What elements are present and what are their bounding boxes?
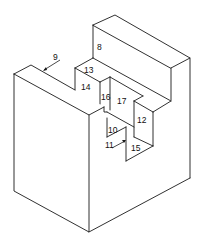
label-face-10: 10 <box>108 125 118 135</box>
label-face-13: 13 <box>84 65 94 75</box>
label-face-15: 15 <box>131 143 141 153</box>
label-face-8: 8 <box>97 42 102 52</box>
label-face-11: 11 <box>105 140 114 150</box>
leader-11 <box>112 140 126 148</box>
label-face-14: 14 <box>81 82 91 92</box>
isometric-block-diagram: 8 9 10 11 12 13 14 15 16 17 <box>0 0 204 241</box>
label-face-16: 16 <box>101 92 111 102</box>
label-face-12: 12 <box>137 115 147 125</box>
label-face-9: 9 <box>53 52 58 62</box>
label-face-17: 17 <box>117 96 127 106</box>
front-left-wall <box>14 65 190 232</box>
